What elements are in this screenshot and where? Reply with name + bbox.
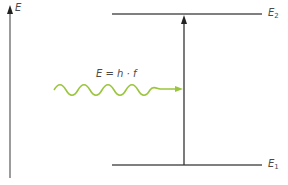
energy-level-e2-label: E2 — [268, 8, 279, 20]
energy-axis — [7, 5, 13, 178]
photon-wave — [54, 85, 183, 96]
photon-arrowhead-icon — [175, 86, 183, 92]
transition-arrowhead-icon — [181, 15, 187, 24]
energy-level-diagram: E E2 E1 E = h · f — [0, 0, 288, 185]
diagram-canvas — [0, 0, 288, 185]
transition-arrow — [181, 15, 187, 165]
photon-energy-formula: E = h · f — [96, 69, 136, 79]
axis-arrowhead-icon — [7, 5, 13, 14]
energy-level-e1-label: E1 — [268, 159, 279, 171]
energy-axis-label: E — [15, 3, 21, 13]
